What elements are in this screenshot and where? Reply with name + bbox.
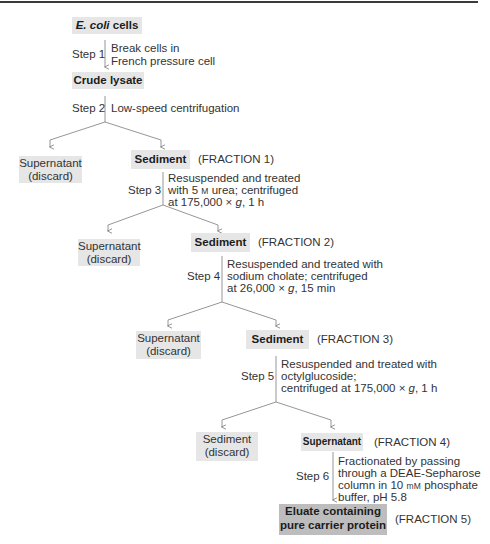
step-3-label: Step 3: [128, 184, 161, 197]
fraction-1-tag: (FRACTION 1): [198, 153, 274, 166]
node-ecoli-cells: E. coli cells: [72, 17, 142, 34]
fraction-3-tag: (FRACTION 3): [317, 333, 393, 346]
fraction-4-tag: (FRACTION 4): [374, 436, 450, 449]
step-1-line-1: Break cells in: [111, 42, 179, 55]
discard-4-line-2: (discard): [196, 446, 258, 459]
node-supernatant-discard-3: Supernatant (discard): [136, 331, 201, 359]
eluate-line-2: pure carrier protein: [279, 519, 387, 533]
discard-1-line-1: Supernatant: [19, 157, 82, 170]
step-2-line-1: Low-speed centrifugation: [111, 102, 240, 115]
discard-3-line-2: (discard): [136, 345, 201, 358]
fraction-5-tag: (FRACTION 5): [395, 513, 471, 526]
step-4-line-3: at 26,000 × g, 15 min: [227, 282, 335, 295]
node-sediment-fraction-2: Sediment: [191, 233, 250, 252]
node-supernatant-discard-1: Supernatant (discard): [19, 156, 82, 183]
step-5-line-3: centrifuged at 175,000 × g, 1 h: [281, 382, 437, 395]
discard-4-line-1: Sediment: [196, 433, 258, 446]
millimolar-unit: mM: [406, 481, 421, 491]
discard-2-line-1: Supernatant: [78, 240, 140, 253]
eluate-line-1: Eluate containing: [279, 505, 387, 519]
node-sediment-discard: Sediment (discard): [196, 432, 258, 461]
g-symbol: g: [409, 382, 415, 394]
node-eluate-fraction-5: Eluate containing pure carrier protein: [279, 504, 387, 535]
step-1-line-2: French pressure cell: [111, 55, 215, 68]
node-sediment-fraction-1: Sediment: [131, 150, 190, 169]
g-symbol: g: [288, 282, 294, 294]
discard-2-line-2: (discard): [78, 253, 140, 266]
discard-1-line-2: (discard): [19, 170, 82, 183]
node-supernatant-discard-2: Supernatant (discard): [78, 239, 140, 266]
node-supernatant-fraction-4: Supernatant: [301, 433, 363, 451]
node-crude-lysate: Crude lysate: [72, 72, 144, 89]
step-2-label: Step 2: [72, 102, 105, 115]
step-5-label: Step 5: [241, 370, 274, 383]
g-symbol: g: [235, 196, 241, 208]
molar-unit: M: [201, 186, 208, 196]
step-6-line-4: buffer, pH 5.8: [338, 491, 407, 504]
ecoli-italic: E. coli: [76, 19, 110, 31]
step-4-label: Step 4: [187, 270, 220, 283]
step-3-line-3: at 175,000 × g, 1 h: [168, 196, 264, 209]
node-sediment-fraction-3: Sediment: [246, 330, 309, 349]
cells-label: cells: [110, 19, 139, 31]
discard-3-line-1: Supernatant: [136, 332, 201, 345]
fraction-2-tag: (FRACTION 2): [258, 236, 334, 249]
step-1-label: Step 1: [72, 48, 105, 61]
step-6-label: Step 6: [296, 470, 329, 483]
